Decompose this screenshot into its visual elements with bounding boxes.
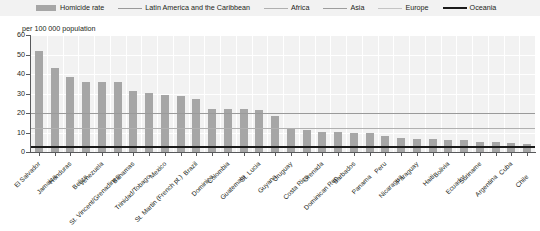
bar[interactable]: [303, 130, 311, 152]
reference-line: [31, 128, 535, 129]
bar[interactable]: [350, 133, 358, 153]
bar[interactable]: [192, 99, 200, 152]
x-axis-tick: [385, 153, 386, 156]
y-axis-tick-label: 30: [1, 90, 25, 97]
y-axis-tick-label: 40: [1, 70, 25, 77]
x-axis-tick: [401, 153, 402, 156]
x-axis-tick: [181, 153, 182, 156]
x-axis-tick: [55, 153, 56, 156]
x-axis-tick: [70, 153, 71, 156]
x-axis-line: [31, 152, 536, 153]
y-axis-tick-label: 10: [1, 129, 25, 136]
x-axis-tick: [480, 153, 481, 156]
y-axis-tick-label: 0: [1, 148, 25, 155]
y-axis-tick: [26, 74, 31, 75]
x-axis-tick: [133, 153, 134, 156]
y-axis-tick: [26, 133, 31, 134]
x-axis-tick: [149, 153, 150, 156]
chart-root: Homicide rateLatin America and the Carib…: [0, 0, 540, 231]
y-axis-tick: [26, 94, 31, 95]
x-axis-tick: [259, 153, 260, 156]
x-axis-tick: [433, 153, 434, 156]
bar-series: [31, 35, 535, 152]
x-axis-tick: [212, 153, 213, 156]
x-axis-tick: [307, 153, 308, 156]
bar[interactable]: [145, 93, 153, 152]
y-axis-tick-label: 60: [1, 31, 25, 38]
bar[interactable]: [114, 82, 122, 152]
bar[interactable]: [35, 51, 43, 152]
x-axis-tick: [496, 153, 497, 156]
x-axis-tick: [228, 153, 229, 156]
x-axis-tick: [448, 153, 449, 156]
bar[interactable]: [66, 77, 74, 152]
bar[interactable]: [177, 96, 185, 152]
y-axis-tick-label: 20: [1, 109, 25, 116]
reference-line: [31, 146, 535, 148]
x-axis-tick: [354, 153, 355, 156]
x-axis-tick: [165, 153, 166, 156]
x-axis-tick: [370, 153, 371, 156]
plot-area: 0102030405060 El SalvadorJamaicaHonduras…: [0, 0, 540, 231]
x-axis-tick: [86, 153, 87, 156]
bar[interactable]: [51, 68, 59, 152]
x-axis-tick: [322, 153, 323, 156]
bar[interactable]: [287, 129, 295, 152]
y-axis-tick: [26, 113, 31, 114]
x-axis-tick: [464, 153, 465, 156]
x-axis-tick: [102, 153, 103, 156]
y-axis-tick: [26, 152, 31, 153]
bar[interactable]: [334, 132, 342, 152]
x-axis-tick: [39, 153, 40, 156]
x-axis-tick: [118, 153, 119, 156]
y-axis-tick-label: 50: [1, 51, 25, 58]
bar[interactable]: [82, 82, 90, 152]
y-axis-tick: [26, 35, 31, 36]
bar[interactable]: [98, 82, 106, 152]
bar[interactable]: [129, 91, 137, 152]
x-axis-tick: [338, 153, 339, 156]
x-axis-tick: [527, 153, 528, 156]
y-axis-tick: [26, 55, 31, 56]
bar[interactable]: [161, 95, 169, 152]
x-axis-tick: [417, 153, 418, 156]
bar[interactable]: [366, 133, 374, 152]
reference-line: [31, 113, 535, 114]
bar[interactable]: [318, 132, 326, 152]
x-axis-tick: [196, 153, 197, 156]
bar[interactable]: [381, 136, 389, 152]
x-axis-tick: [275, 153, 276, 156]
x-axis-tick: [244, 153, 245, 156]
x-axis-tick: [291, 153, 292, 156]
x-axis-tick: [511, 153, 512, 156]
